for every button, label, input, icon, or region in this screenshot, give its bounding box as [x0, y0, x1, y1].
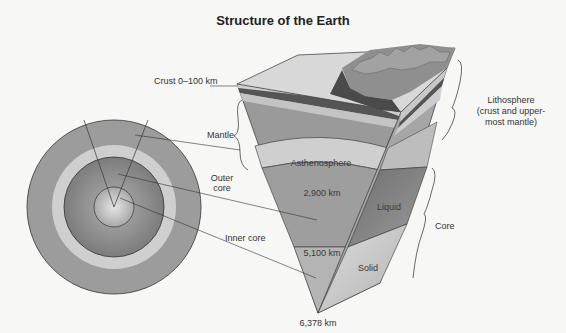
label-inner-core: Inner core — [225, 233, 266, 243]
label-asthenosphere: Asthenosphere — [291, 158, 352, 168]
label-mantle: Mantle — [207, 130, 234, 140]
label-depth-5100: 5,100 km — [303, 248, 340, 258]
label-liquid: Liquid — [377, 202, 401, 212]
label-solid: Solid — [358, 263, 378, 273]
label-lithosphere-1: Lithosphere — [487, 95, 534, 105]
label-core: Core — [435, 221, 455, 231]
earth-cross-section — [27, 120, 201, 294]
label-crust: Crust 0–100 km — [154, 76, 218, 86]
label-outer-core-1: Outer — [211, 173, 234, 183]
earth-wedge-block — [237, 44, 455, 313]
label-lithosphere-2: (crust and upper- — [477, 106, 546, 116]
diagram-title: Structure of the Earth — [216, 13, 350, 28]
earth-structure-diagram: Structure of the Earth — [0, 0, 566, 333]
label-depth-6378: 6,378 km — [299, 318, 336, 328]
label-depth-2900: 2,900 km — [303, 188, 340, 198]
label-outer-core-2: core — [213, 183, 231, 193]
label-lithosphere-3: most mantle) — [485, 117, 537, 127]
